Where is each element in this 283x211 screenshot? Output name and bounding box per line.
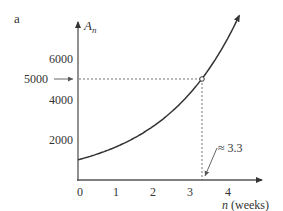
approx-3.3-label: ≈ 3.3 <box>218 141 243 155</box>
y-tick-2000: 2000 <box>49 133 73 147</box>
y-tick-5000: 5000 <box>24 72 48 86</box>
y-axis-label: An <box>83 18 97 35</box>
exponential-growth-chart: a An 6000 5000 4000 2000 0 1 2 3 4 n(wee… <box>0 0 283 211</box>
intersection-point <box>200 77 205 82</box>
x-tick-2: 2 <box>150 185 156 199</box>
x-tick-0: 0 <box>77 185 83 199</box>
x-axis-label: n(weeks) <box>222 198 269 211</box>
y-tick-4000: 4000 <box>49 93 73 107</box>
y-tick-6000: 6000 <box>49 52 73 66</box>
x-tick-4: 4 <box>225 185 231 199</box>
panel-label: a <box>14 11 20 26</box>
growth-curve <box>78 16 239 160</box>
x-tick-1: 1 <box>113 185 119 199</box>
arrow-to-3.3 <box>205 148 217 176</box>
x-tick-3: 3 <box>187 185 193 199</box>
